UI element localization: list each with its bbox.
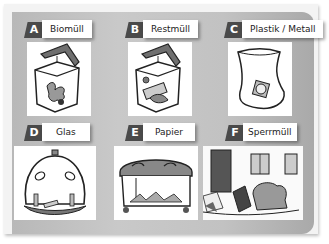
- category-label-d: D Glas: [24, 123, 90, 141]
- letter-tab: E: [125, 125, 145, 141]
- category-label-e: E Papier: [125, 123, 195, 141]
- letter-tab: A: [24, 22, 44, 38]
- bulky-waste-icon: [203, 146, 303, 220]
- category-name: Glas: [42, 123, 90, 141]
- category-name: Biomüll: [42, 20, 92, 38]
- category-label-f: F Sperrmüll: [225, 123, 297, 141]
- category-name: Restmüll: [143, 20, 198, 38]
- category-label-c: C Plastik / Metall: [224, 20, 323, 38]
- category-name: Plastik / Metall: [242, 20, 323, 38]
- plastic-metal-bag-icon: [228, 42, 292, 116]
- letter-tab: B: [125, 22, 145, 38]
- letter-tab: F: [225, 125, 245, 141]
- category-name: Papier: [143, 123, 195, 141]
- category-name: Sperrmüll: [243, 123, 297, 141]
- category-label-a: A Biomüll: [24, 20, 92, 38]
- letter-tab: C: [224, 22, 244, 38]
- category-label-b: B Restmüll: [125, 20, 198, 38]
- organic-waste-bin-icon: [27, 42, 91, 116]
- glass-container-icon: [14, 146, 96, 220]
- paper-container-icon: [114, 146, 198, 220]
- residual-waste-bin-icon: [128, 42, 192, 116]
- letter-tab: D: [24, 125, 44, 141]
